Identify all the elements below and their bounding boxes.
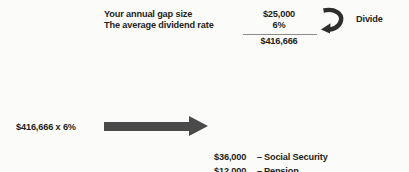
average-dividend-rate-value: 6% — [248, 20, 310, 32]
right-arrow-icon — [104, 116, 208, 136]
division-rule-line — [243, 34, 317, 35]
division-result-value: $416,666 — [246, 36, 312, 48]
annual-gap-size-label: Your annual gap size — [104, 9, 192, 21]
income-separator: – — [256, 150, 264, 164]
list-item: $36,000–Social Security — [214, 150, 409, 164]
multiply-block: $416,666 x 6% $36,000–Social Security $1… — [0, 58, 409, 172]
diagram-canvas: Your annual gap size The average dividen… — [0, 0, 409, 172]
multiply-input-expression: $416,666 x 6% — [16, 122, 76, 134]
average-dividend-rate-label: The average dividend rate — [104, 20, 214, 32]
curved-arrow-icon — [316, 5, 346, 35]
annual-gap-size-value: $25,000 — [248, 9, 310, 21]
divide-operation-label: Divide — [356, 14, 383, 26]
arrow-head — [189, 116, 208, 136]
income-separator: – — [256, 164, 264, 172]
income-breakdown-list: $36,000–Social Security $12,000–Pension … — [214, 150, 409, 172]
division-block: Your annual gap size The average dividen… — [0, 0, 409, 58]
income-amount: $36,000 — [214, 150, 256, 164]
income-amount: $12,000 — [214, 164, 256, 172]
arrow-shaft — [104, 122, 190, 131]
list-item: $12,000–Pension — [214, 164, 409, 172]
income-description: Pension — [264, 164, 299, 172]
income-description: Social Security — [264, 150, 328, 164]
